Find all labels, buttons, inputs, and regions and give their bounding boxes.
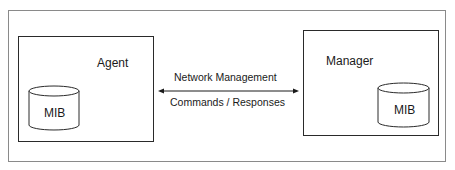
agent-mib-label: MIB — [44, 107, 65, 119]
diagram-shapes — [0, 0, 455, 170]
agent-label: Agent — [97, 57, 128, 69]
link-top-label: Network Management — [174, 72, 277, 83]
manager-label: Manager — [326, 55, 373, 67]
manager-mib-label: MIB — [394, 104, 415, 116]
bidirectional-arrow-icon — [158, 89, 299, 94]
link-bottom-label: Commands / Responses — [170, 97, 285, 108]
